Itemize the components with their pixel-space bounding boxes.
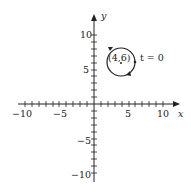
y-tick-label: −5	[77, 135, 91, 146]
parametric-circle-diagram: x y −10 −5 5 10 10 5 −5 −10 (4,6) t = 0	[0, 0, 191, 193]
y-axis	[91, 20, 97, 182]
y-axis-label: y	[100, 10, 107, 21]
y-tick-label: −10	[71, 169, 91, 180]
x-tick-label: −10	[12, 108, 32, 119]
y-tick-label: 10	[80, 29, 92, 40]
x-tick-label: −5	[53, 108, 67, 119]
y-tick-label: 5	[83, 64, 89, 75]
x-axis-label: x	[178, 108, 184, 119]
x-axis	[18, 101, 176, 107]
x-tick-label: 10	[157, 108, 169, 119]
center-label: (4,6)	[108, 52, 131, 63]
start-point	[134, 61, 137, 64]
start-point-label: t = 0	[140, 52, 164, 63]
y-axis-arrow-icon	[91, 14, 97, 21]
x-tick-label: 5	[125, 108, 131, 119]
x-axis-arrow-icon	[173, 101, 180, 107]
